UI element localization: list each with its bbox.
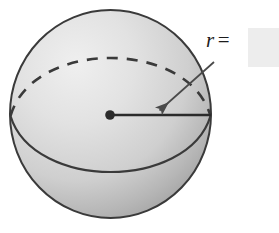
radius-variable: r (206, 28, 215, 52)
radius-label: r= (206, 30, 230, 51)
radius-answer-input[interactable] (248, 28, 279, 67)
sphere-radius-figure: r= (0, 0, 279, 233)
sphere-diagram (0, 0, 279, 233)
equals-sign: = (218, 28, 230, 52)
sphere-center-dot (105, 110, 115, 120)
